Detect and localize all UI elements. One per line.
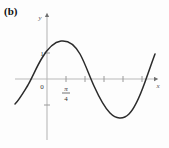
x-axis-label: x (155, 82, 160, 90)
x-tick-label-pi-over-four: π 4 (62, 85, 70, 103)
y-axis-label: y (37, 14, 42, 22)
plot-canvas: y x 0 1 π 4 (0, 0, 169, 148)
y-tick-label-one: 1 (40, 50, 44, 58)
figure-container: (b) y x 0 1 (0, 0, 169, 148)
fraction-numerator: π (64, 85, 68, 93)
origin-label: 0 (40, 83, 44, 91)
fraction-denominator: 4 (64, 95, 68, 103)
